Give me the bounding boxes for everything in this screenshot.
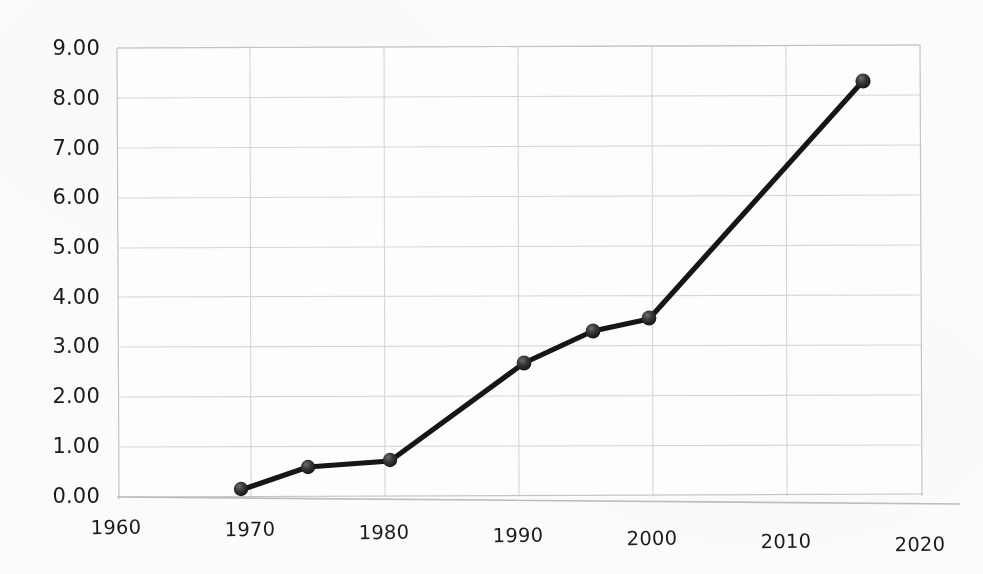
data-point-2016: [855, 73, 870, 88]
data-point-1981: [383, 453, 397, 467]
data-point-2000: [642, 311, 657, 326]
chart-page: 9.00 8.00 7.00 6.00 5.00 4.00 3.00 2.00 …: [0, 0, 983, 574]
data-point-1975: [301, 460, 315, 474]
data-point-1996: [586, 324, 601, 339]
line-chart-plot: [0, 0, 983, 574]
x-axis-baseline: [117, 497, 960, 504]
data-point-1970: [234, 482, 248, 496]
plot-area-background: [117, 45, 922, 499]
data-point-1991: [517, 356, 532, 371]
